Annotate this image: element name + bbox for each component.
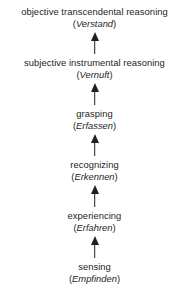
arrow-stem <box>94 39 96 54</box>
close-paren: ) <box>117 273 120 284</box>
level-german-label: (Erkennen) <box>0 171 189 183</box>
close-paren: ) <box>112 222 115 233</box>
level-english-label: grasping <box>0 108 189 120</box>
level-english-label: objective transcendental reasoning <box>0 6 189 18</box>
level-german-word: Erfahren <box>77 222 113 233</box>
diagram-level-experiencing: experiencing (Erfahren) <box>0 210 189 233</box>
arrow-up-icon <box>89 236 100 258</box>
arrow-stem <box>94 141 96 156</box>
cognition-hierarchy-diagram: objective transcendental reasoning (Vers… <box>0 0 189 292</box>
arrow-up-icon <box>89 83 100 105</box>
close-paren: ) <box>109 69 112 80</box>
arrow-up-icon <box>89 185 100 207</box>
level-german-word: Vernuft <box>80 69 110 80</box>
level-german-label: (Verstand) <box>0 18 189 30</box>
level-english-label: experiencing <box>0 210 189 222</box>
close-paren: ) <box>113 120 116 131</box>
level-german-word: Erfassen <box>76 120 113 131</box>
arrow-stem <box>94 90 96 105</box>
diagram-level-sensing: sensing (Empfinden) <box>0 261 189 284</box>
arrow-up-icon <box>89 134 100 156</box>
close-paren: ) <box>115 171 118 182</box>
level-english-label: subjective instrumental reasoning <box>0 57 189 69</box>
level-german-word: Empfinden <box>72 273 117 284</box>
level-german-word: Erkennen <box>74 171 114 182</box>
level-german-label: (Vernuft) <box>0 69 189 81</box>
close-paren: ) <box>113 18 116 29</box>
level-english-label: recognizing <box>0 159 189 171</box>
level-german-label: (Erfassen) <box>0 120 189 132</box>
diagram-level-subjective-instrumental-reasoning: subjective instrumental reasoning (Vernu… <box>0 57 189 80</box>
diagram-level-grasping: grasping (Erfassen) <box>0 108 189 131</box>
arrow-stem <box>94 243 96 258</box>
diagram-level-objective-transcendental-reasoning: objective transcendental reasoning (Vers… <box>0 6 189 29</box>
level-german-label: (Erfahren) <box>0 222 189 234</box>
level-english-label: sensing <box>0 261 189 273</box>
diagram-level-recognizing: recognizing (Erkennen) <box>0 159 189 182</box>
level-german-word: Verstand <box>76 18 113 29</box>
arrow-up-icon <box>89 32 100 54</box>
level-german-label: (Empfinden) <box>0 273 189 285</box>
arrow-stem <box>94 192 96 207</box>
